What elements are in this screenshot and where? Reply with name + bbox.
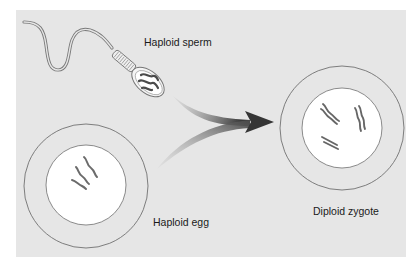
sperm-label: Haploid sperm <box>144 36 212 48</box>
diploid-zygote <box>280 66 404 190</box>
zygote-nucleus <box>302 88 382 168</box>
fertilization-diagram: Haploid sperm Haploid egg D <box>0 0 418 268</box>
egg-label: Haploid egg <box>153 216 209 228</box>
egg-nucleus <box>46 145 126 225</box>
zygote-label: Diploid zygote <box>313 205 379 217</box>
haploid-egg <box>24 124 148 248</box>
